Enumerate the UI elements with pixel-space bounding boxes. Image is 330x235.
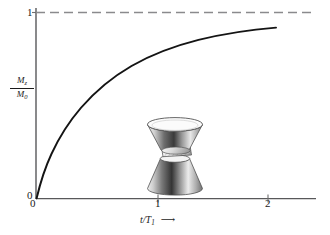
y-axis-label-denominator: M0	[10, 89, 34, 101]
axis-ticks	[32, 13, 268, 203]
x-tick-label-2: 2	[265, 198, 271, 209]
nmr-relaxation-figure: Mz M0 t/T1⟶ 0 1 2 0 1	[0, 0, 330, 235]
y-tick-label-1: 1	[27, 7, 33, 18]
y-axis-label-numerator: Mz	[10, 76, 34, 89]
upper-cone-rim-ellipse	[148, 118, 203, 132]
x-axis-arrow-icon: ⟶	[161, 214, 174, 225]
x-axis-label-subscript: 1	[151, 219, 155, 227]
mid-disc-ellipse	[162, 147, 190, 154]
x-tick-label-1: 1	[155, 198, 161, 209]
y-axis-label: Mz M0	[10, 76, 34, 100]
plot-canvas	[0, 0, 330, 235]
x-axis-label-text: t/T	[140, 214, 151, 225]
double-cone-magnetization-illustration	[148, 118, 203, 195]
lower-cone-body	[148, 159, 203, 196]
x-axis-label: t/T1⟶	[140, 214, 174, 227]
y-tick-label-0: 0	[27, 190, 33, 201]
